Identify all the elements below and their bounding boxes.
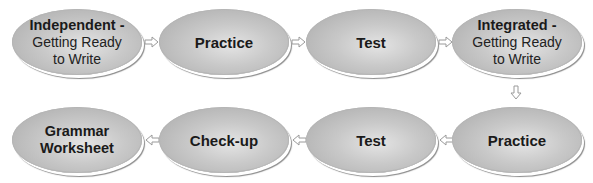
node-subtitle-line: Getting Ready bbox=[472, 34, 562, 51]
node-title: Practice bbox=[488, 132, 546, 149]
node-title: Independent - bbox=[29, 17, 124, 34]
node-title: Grammar bbox=[45, 123, 109, 140]
node-title: Check-up bbox=[190, 132, 258, 149]
node-integrated-getting-ready: Integrated - Getting Ready to Write bbox=[452, 9, 582, 75]
arrow-right-icon bbox=[144, 36, 160, 48]
node-title: Practice bbox=[195, 34, 253, 51]
node-subtitle-line: to Write bbox=[493, 51, 541, 68]
arrow-left-icon bbox=[144, 134, 160, 146]
node-test-1: Test bbox=[306, 9, 436, 75]
node-title-line-2: Worksheet bbox=[40, 140, 114, 157]
arrow-left-icon bbox=[291, 134, 307, 146]
node-title: Test bbox=[356, 34, 386, 51]
arrow-down-icon bbox=[510, 85, 522, 101]
node-grammar-worksheet: Grammar Worksheet bbox=[12, 107, 142, 173]
node-practice-1: Practice bbox=[159, 9, 289, 75]
node-independent-getting-ready: Independent - Getting Ready to Write bbox=[12, 9, 142, 75]
node-title: Test bbox=[356, 132, 386, 149]
node-title: Integrated - bbox=[478, 17, 557, 34]
node-subtitle-line: to Write bbox=[53, 51, 101, 68]
arrow-right-icon bbox=[291, 36, 307, 48]
node-practice-2: Practice bbox=[452, 107, 582, 173]
node-check-up: Check-up bbox=[159, 107, 289, 173]
node-test-2: Test bbox=[306, 107, 436, 173]
node-subtitle-line: Getting Ready bbox=[32, 34, 122, 51]
flow-diagram: Independent - Getting Ready to Write Pra… bbox=[0, 0, 593, 183]
